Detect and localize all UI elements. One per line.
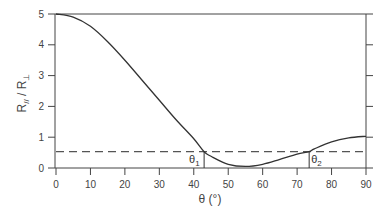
plot-frame — [55, 14, 366, 168]
x-tick-label: 50 — [223, 179, 235, 190]
x-tick-label: 70 — [292, 179, 304, 190]
y-axis-tick-labels: 012345 — [38, 9, 44, 174]
theta2-label: θ2 — [311, 153, 322, 168]
x-tick-label: 20 — [119, 179, 131, 190]
y-tick-label: 3 — [38, 70, 44, 81]
x-tick-label: 10 — [85, 179, 97, 190]
y-tick-label: 0 — [38, 163, 44, 174]
ratio-curve — [56, 14, 366, 166]
x-tick-label: 90 — [360, 179, 372, 190]
x-axis-tick-labels: 0102030405060708090 — [53, 179, 372, 190]
x-tick-label: 60 — [257, 179, 269, 190]
x-tick-label: 80 — [326, 179, 338, 190]
x-axis-ticks — [56, 168, 366, 175]
y-tick-label: 4 — [38, 39, 44, 50]
y-tick-label: 5 — [38, 9, 44, 20]
x-axis-label: θ (°) — [199, 192, 222, 206]
y-axis-label: R// / R⊥ — [15, 74, 31, 113]
x-tick-label: 30 — [154, 179, 166, 190]
x-tick-label: 40 — [188, 179, 200, 190]
theta1-label: θ1 — [189, 153, 200, 168]
y-tick-label: 2 — [38, 101, 44, 112]
chart-canvas: 012345 0102030405060708090 θ1 θ2 θ (°) R… — [0, 0, 390, 217]
y-tick-label: 1 — [38, 132, 44, 143]
x-tick-label: 0 — [53, 179, 59, 190]
